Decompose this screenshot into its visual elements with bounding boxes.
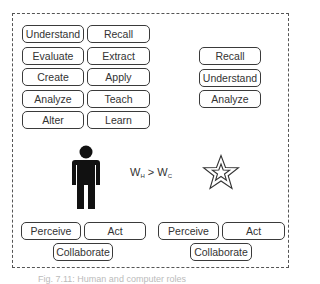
human-skill-analyze: Analyze <box>22 90 84 108</box>
person-icon <box>70 145 102 211</box>
human-skill-create: Create <box>22 68 84 86</box>
human-collaborate: Collaborate <box>53 243 113 261</box>
computer-act: Act <box>222 222 285 240</box>
human-skill-recall: Recall <box>87 25 150 43</box>
computer-skill-analyze: Analyze <box>199 90 261 108</box>
human-skill-learn: Learn <box>87 111 150 129</box>
computer-skill-understand: Understand <box>199 69 261 87</box>
star-icon <box>202 154 240 191</box>
human-skill-alter: Alter <box>22 111 84 129</box>
computer-perceive: Perceive <box>158 222 219 240</box>
weight-formula: WH > WC <box>130 166 172 179</box>
human-skill-evaluate: Evaluate <box>22 47 84 65</box>
human-perceive: Perceive <box>21 222 81 240</box>
figure-caption: Fig. 7.11: Human and computer roles <box>38 274 186 284</box>
human-act: Act <box>84 222 146 240</box>
computer-collaborate: Collaborate <box>190 243 252 261</box>
human-skill-apply: Apply <box>87 68 150 86</box>
human-skill-extract: Extract <box>87 47 150 65</box>
human-skill-understand: Understand <box>22 25 84 43</box>
human-skill-teach: Teach <box>87 90 150 108</box>
computer-skill-recall: Recall <box>199 47 261 65</box>
